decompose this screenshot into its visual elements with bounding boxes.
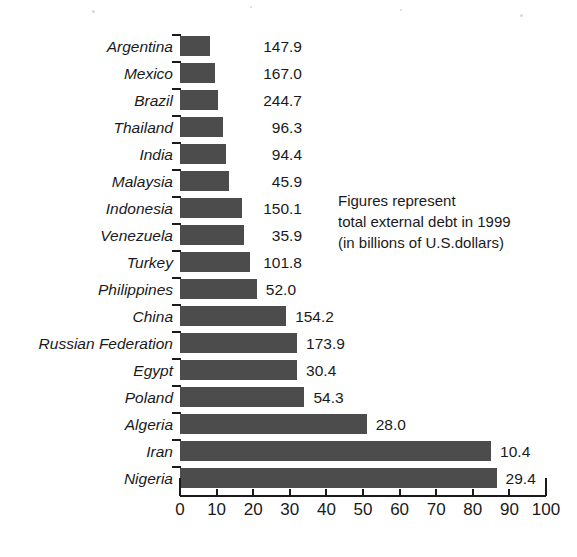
- category-label: Philippines: [0, 276, 180, 303]
- bar-value-label: 45.9: [0, 168, 302, 195]
- bar-value-label: 154.2: [295, 303, 334, 330]
- bar-value-label: 101.8: [0, 249, 302, 276]
- category-label: Nigeria: [0, 465, 180, 492]
- bar: [180, 387, 304, 407]
- x-axis-tick: [289, 489, 291, 496]
- bar-value-label: 94.4: [0, 141, 302, 168]
- bar-value-label: 28.0: [376, 411, 406, 438]
- category-label: Egypt: [0, 357, 180, 384]
- category-label: Poland: [0, 384, 180, 411]
- x-axis-tick: [399, 489, 401, 496]
- x-axis-tick: [435, 489, 437, 496]
- bar-value-label: 54.3: [313, 384, 343, 411]
- annotation-line: Figures represent: [338, 190, 511, 211]
- bar-row: Turkey101.8: [0, 249, 577, 276]
- bar: [180, 360, 297, 380]
- bar-row: China154.2: [0, 303, 577, 330]
- bar-value-label: 167.0: [0, 60, 302, 87]
- bar: [180, 279, 257, 299]
- scan-speckle: [520, 14, 523, 17]
- bar-value-label: 150.1: [0, 195, 302, 222]
- bar-row: Mexico167.0: [0, 60, 577, 87]
- x-axis-tick: [252, 489, 254, 496]
- bar-value-label: 96.3: [0, 114, 302, 141]
- bar-value-label: 173.9: [306, 330, 345, 357]
- x-axis-tick: [472, 489, 474, 496]
- scan-speckle: [92, 10, 95, 13]
- bar-row: Thailand96.3: [0, 114, 577, 141]
- bar-row: Poland54.3: [0, 384, 577, 411]
- bar: [180, 441, 491, 461]
- annotation-line: total external debt in 1999: [338, 211, 511, 232]
- bar-value-label: 10.4: [500, 438, 530, 465]
- x-axis-tick: [362, 489, 364, 496]
- bar-row: Brazil244.7: [0, 87, 577, 114]
- annotation-line: (in billions of U.S.dollars): [338, 232, 511, 253]
- bar-value-label: 147.9: [0, 33, 302, 60]
- x-axis-tick-label: 100: [516, 500, 576, 520]
- chart-annotation: Figures representtotal external debt in …: [338, 190, 511, 253]
- x-axis-tick: [216, 489, 218, 496]
- bar-row: India94.4: [0, 141, 577, 168]
- bar-value-label: 35.9: [0, 222, 302, 249]
- bar: [180, 306, 286, 326]
- bar-row: Argentina147.9: [0, 33, 577, 60]
- bar: [180, 468, 497, 488]
- category-label: Iran: [0, 438, 180, 465]
- bar-value-label: 30.4: [306, 357, 336, 384]
- scan-speckle: [400, 9, 402, 11]
- category-label: Russian Federation: [0, 330, 180, 357]
- x-axis-tick: [325, 489, 327, 496]
- scan-speckle: [250, 6, 252, 8]
- bar-value-label: 244.7: [0, 87, 302, 114]
- bar: [180, 333, 297, 353]
- bar-row: Egypt30.4: [0, 357, 577, 384]
- bar-row: Nigeria29.4: [0, 465, 577, 492]
- bar-row: Iran10.4: [0, 438, 577, 465]
- chart-page: Argentina147.9Mexico167.0Brazil244.7Thai…: [0, 0, 577, 557]
- bar-row: Russian Federation173.9: [0, 330, 577, 357]
- bar-value-label: 52.0: [266, 276, 296, 303]
- bar-row: Philippines52.0: [0, 276, 577, 303]
- x-axis-tick: [508, 489, 510, 496]
- bar-chart-plot-area: Argentina147.9Mexico167.0Brazil244.7Thai…: [0, 0, 577, 557]
- bar: [180, 414, 367, 434]
- x-axis-tick: [179, 478, 181, 496]
- category-label: Algeria: [0, 411, 180, 438]
- x-axis-tick: [545, 478, 547, 496]
- bar-value-label: 29.4: [506, 465, 536, 492]
- category-label: China: [0, 303, 180, 330]
- bar-row: Algeria28.0: [0, 411, 577, 438]
